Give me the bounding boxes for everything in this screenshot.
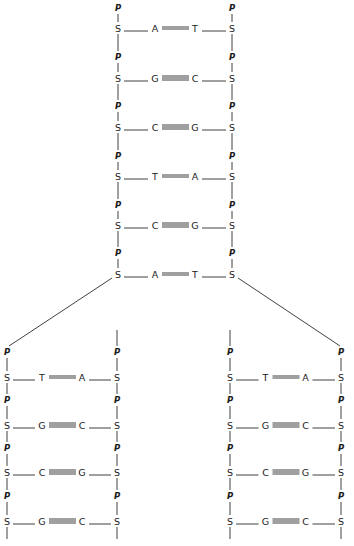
phosphate-label: P — [115, 200, 122, 210]
base-label: C — [152, 220, 159, 231]
base-label: C — [79, 516, 86, 527]
sugar-label: S — [229, 269, 235, 280]
base-label: C — [39, 467, 46, 478]
sugar-label: S — [4, 372, 10, 383]
phosphate-label: P — [114, 443, 121, 453]
base-label: G — [262, 516, 269, 527]
base-label: C — [302, 516, 309, 527]
base-label: C — [192, 73, 199, 84]
base-label: A — [192, 171, 199, 182]
phosphate-label: P — [229, 200, 236, 210]
base-label: T — [262, 372, 269, 383]
phosphate-label: P — [229, 248, 236, 258]
base-label: G — [191, 220, 198, 231]
phosphate-label: P — [114, 491, 121, 501]
phosphate-label: P — [4, 443, 11, 453]
sugar-label: S — [229, 73, 235, 84]
sugar-label: S — [229, 220, 235, 231]
base-label: A — [152, 23, 159, 34]
sugar-label: S — [115, 73, 121, 84]
base-label: A — [79, 372, 86, 383]
sugar-label: S — [338, 467, 344, 478]
phosphate-label: P — [227, 491, 234, 501]
phosphate-label: P — [229, 101, 236, 111]
base-label: A — [302, 372, 309, 383]
dna-replication-diagram: PSPSPSPSPSPSPSPSPSPSPSPSATGCCGTACGATPSPS… — [0, 0, 354, 546]
phosphate-label: P — [4, 395, 11, 405]
sugar-label: S — [114, 420, 120, 431]
phosphate-label: P — [227, 347, 234, 357]
strand-separation-line-right — [238, 278, 340, 346]
strand-separation-line-left — [9, 278, 112, 346]
phosphate-label: P — [115, 3, 122, 13]
base-label: C — [262, 467, 269, 478]
phosphate-label: P — [338, 491, 345, 501]
base-label: C — [79, 420, 86, 431]
phosphate-label: P — [229, 52, 236, 62]
right-daughter-helix: PSPSPSPSPSPSPSPSTAGCCGGC — [227, 330, 345, 539]
sugar-label: S — [114, 372, 120, 383]
phosphate-label: P — [229, 151, 236, 161]
phosphate-label: P — [4, 347, 11, 357]
sugar-label: S — [229, 122, 235, 133]
sugar-label: S — [227, 372, 233, 383]
sugar-label: S — [4, 420, 10, 431]
sugar-label: S — [114, 467, 120, 478]
phosphate-label: P — [338, 347, 345, 357]
phosphate-label: P — [229, 3, 236, 13]
base-label: G — [78, 467, 85, 478]
sugar-label: S — [114, 516, 120, 527]
base-label: C — [152, 122, 159, 133]
base-label: T — [191, 269, 198, 280]
phosphate-label: P — [115, 248, 122, 258]
sugar-label: S — [227, 467, 233, 478]
phosphate-label: P — [114, 347, 121, 357]
sugar-label: S — [115, 220, 121, 231]
phosphate-label: P — [227, 395, 234, 405]
phosphate-label: P — [227, 443, 234, 453]
base-label: C — [302, 420, 309, 431]
base-label: T — [151, 171, 158, 182]
base-label: G — [38, 516, 45, 527]
sugar-label: S — [115, 269, 121, 280]
base-label: A — [152, 269, 159, 280]
parent-helix: PSPSPSPSPSPSPSPSPSPSPSPSATGCCGTACGAT — [115, 3, 236, 280]
sugar-label: S — [229, 23, 235, 34]
sugar-label: S — [229, 171, 235, 182]
sugar-label: S — [338, 372, 344, 383]
phosphate-label: P — [115, 52, 122, 62]
base-label: G — [302, 467, 309, 478]
phosphate-label: P — [338, 395, 345, 405]
sugar-label: S — [115, 122, 121, 133]
phosphate-label: P — [115, 101, 122, 111]
base-label: G — [38, 420, 45, 431]
base-label: T — [191, 23, 198, 34]
sugar-label: S — [338, 516, 344, 527]
sugar-label: S — [4, 516, 10, 527]
phosphate-label: P — [115, 151, 122, 161]
base-label: G — [262, 420, 269, 431]
base-label: G — [191, 122, 198, 133]
left-daughter-helix: PSPSPSPSPSPSPSPSTAGCCGGC — [4, 330, 121, 539]
sugar-label: S — [115, 23, 121, 34]
sugar-label: S — [115, 171, 121, 182]
sugar-label: S — [227, 420, 233, 431]
sugar-label: S — [4, 467, 10, 478]
phosphate-label: P — [4, 491, 11, 501]
phosphate-label: P — [338, 443, 345, 453]
sugar-label: S — [227, 516, 233, 527]
sugar-label: S — [338, 420, 344, 431]
phosphate-label: P — [114, 395, 121, 405]
base-label: T — [38, 372, 45, 383]
base-label: G — [151, 73, 158, 84]
